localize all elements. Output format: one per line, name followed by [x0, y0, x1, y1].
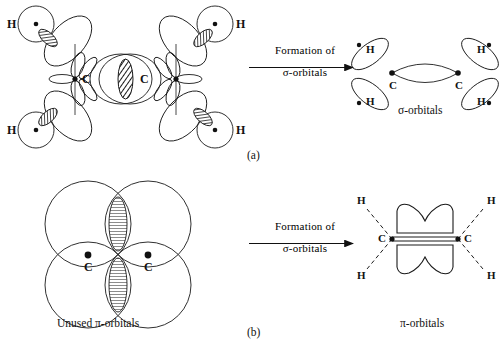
hydrogen-label-pi-bottom-right: H	[487, 270, 496, 281]
cc-sigma-overlap-lens	[118, 59, 133, 99]
carbon-label-a-left: C	[82, 73, 91, 85]
unused-pi-orbitals-caption: Unused π-orbitals	[57, 318, 139, 330]
carbon-nucleus-dot	[173, 76, 178, 81]
pi-overlap-lens	[109, 197, 127, 251]
hydrogen-electron-dot	[213, 22, 218, 27]
carbon-label-sigma-left: C	[389, 80, 397, 91]
carbon-nucleus-dot	[455, 70, 461, 76]
hydrogen-label-pi-top-left: H	[357, 195, 366, 206]
panel-b-arrow-line	[249, 233, 361, 240]
panel-b-arrow-top-label: Formation of	[249, 220, 361, 232]
hydrogen-electron-dot	[213, 128, 218, 133]
orbital-formation-figure: H H H H C C Formation of σ-orbitals H H …	[0, 0, 503, 356]
panel-a-arrow: Formation of σ-orbitals	[249, 44, 361, 78]
hydrogen-electron-dot	[34, 128, 39, 133]
hydrogen-electron-dot	[34, 22, 39, 27]
hydrogen-label-sigma-bottom-left: H	[366, 96, 375, 107]
pi-cloud-upper	[397, 204, 453, 233]
panel-b-arrow: Formation of σ-orbitals	[249, 220, 361, 254]
hydrogen-label-sigma-top-left: H	[366, 44, 375, 55]
carbon-nucleus-dot	[455, 236, 460, 241]
hydrogen-label-a-top-right: H	[236, 18, 245, 30]
panel-a-caption: (a)	[247, 150, 260, 162]
carbon-nucleus-dot	[389, 236, 394, 241]
carbon-nucleus-dot	[85, 252, 92, 259]
panel-a-arrow-top-label: Formation of	[249, 44, 361, 56]
sigma-lobe	[457, 73, 503, 116]
carbon-nucleus-dot	[145, 252, 152, 259]
hydrogen-label-a-bottom-right: H	[236, 124, 245, 136]
carbon-label-pi-right: C	[464, 233, 472, 244]
carbon-nucleus-dot	[389, 70, 395, 76]
panel-a-left-diagram	[18, 6, 233, 150]
panel-a-arrow-line	[249, 57, 361, 64]
hydrogen-electron-dot	[487, 101, 491, 105]
carbon-label-b-left: C	[84, 261, 93, 273]
hydrogen-electron-dot	[357, 101, 361, 105]
sigma-orbitals-caption: σ-orbitals	[398, 105, 443, 117]
pi-overlap-lens	[109, 258, 127, 312]
carbon-label-a-right: C	[140, 73, 149, 85]
hydrogen-label-a-bottom-left: H	[7, 124, 16, 136]
hydrogen-label-pi-top-right: H	[487, 195, 496, 206]
panel-b-left-diagram	[45, 181, 191, 328]
panel-b-caption: (b)	[247, 327, 260, 339]
carbon-label-pi-left: C	[378, 233, 386, 244]
pi-orbitals-caption: π-orbitals	[400, 318, 444, 330]
hydrogen-electron-dot	[487, 43, 491, 47]
pi-cloud-lower	[397, 245, 453, 274]
hydrogen-label-pi-bottom-left: H	[357, 270, 366, 281]
carbon-label-sigma-right: C	[455, 80, 463, 91]
carbon-nucleus-dot	[72, 76, 77, 81]
sigma-lobe	[347, 73, 394, 116]
hydrogen-label-a-top-left: H	[7, 18, 16, 30]
hydrogen-label-sigma-bottom-right: H	[477, 96, 486, 107]
carbon-label-b-right: C	[144, 261, 153, 273]
hydrogen-label-sigma-top-right: H	[477, 44, 486, 55]
